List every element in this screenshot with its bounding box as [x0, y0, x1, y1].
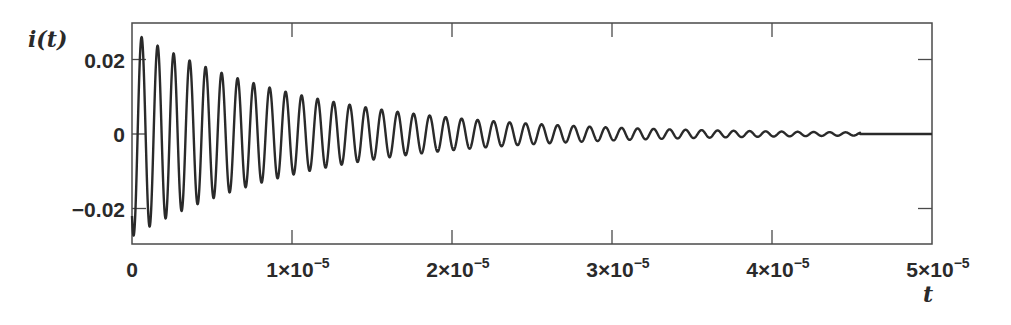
y-tick-label: 0 [113, 123, 125, 146]
series-line-i-t [132, 37, 932, 235]
y-axis-title: i(t) [28, 26, 67, 52]
x-tick-label: 0 [126, 258, 138, 281]
x-axis-title: t [923, 281, 933, 307]
x-tick-label: 1×10−5 [266, 255, 329, 281]
x-tick-label: 5×10−5 [906, 255, 969, 281]
x-axis-ticks: 01×10−52×10−53×10−54×10−55×10−5 [126, 23, 970, 281]
plot-area [132, 37, 932, 235]
decaying-current-chart: 0.020−0.02 01×10−52×10−53×10−54×10−55×10… [0, 0, 1011, 325]
x-tick-label: 3×10−5 [586, 255, 649, 281]
y-tick-label: 0.02 [84, 49, 125, 72]
y-tick-label: −0.02 [72, 198, 125, 221]
x-tick-label: 2×10−5 [426, 255, 489, 281]
x-tick-label: 4×10−5 [746, 255, 809, 281]
